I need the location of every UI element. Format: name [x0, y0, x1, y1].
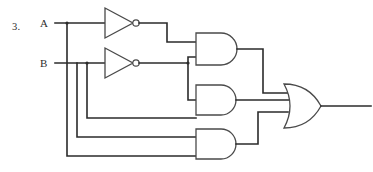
junction-dot-notb	[186, 61, 189, 64]
input-label-b: B	[40, 58, 48, 69]
circuit-diagram-canvas: 3. A B	[0, 0, 373, 172]
wire-and1-to-or	[237, 49, 288, 93]
or-gate	[284, 84, 321, 128]
wire-and3-to-or	[236, 112, 288, 144]
junction-dot-b	[85, 61, 88, 64]
wire-b-branch-down	[87, 63, 196, 118]
and-gate-2	[196, 85, 236, 115]
or-gate-body	[284, 84, 321, 128]
wire-b-branch-down-2	[77, 63, 196, 137]
and-gate-3	[196, 129, 236, 159]
not-gate-a	[105, 8, 139, 38]
and-gate-3-body	[196, 129, 236, 159]
junction-dot-a	[65, 21, 68, 24]
wire-nota-to-and1	[139, 23, 196, 42]
not-gate-b	[105, 48, 139, 78]
not-gate-b-triangle	[105, 48, 133, 78]
input-label-a: A	[40, 18, 48, 29]
logic-circuit-svg	[0, 0, 373, 172]
problem-number-label: 3.	[12, 22, 20, 33]
not-gate-a-triangle	[105, 8, 133, 38]
and-gate-1	[196, 33, 237, 65]
and-gate-2-body	[196, 85, 236, 115]
and-gate-1-body	[196, 33, 237, 65]
wire-notb-to-and2	[188, 63, 196, 100]
